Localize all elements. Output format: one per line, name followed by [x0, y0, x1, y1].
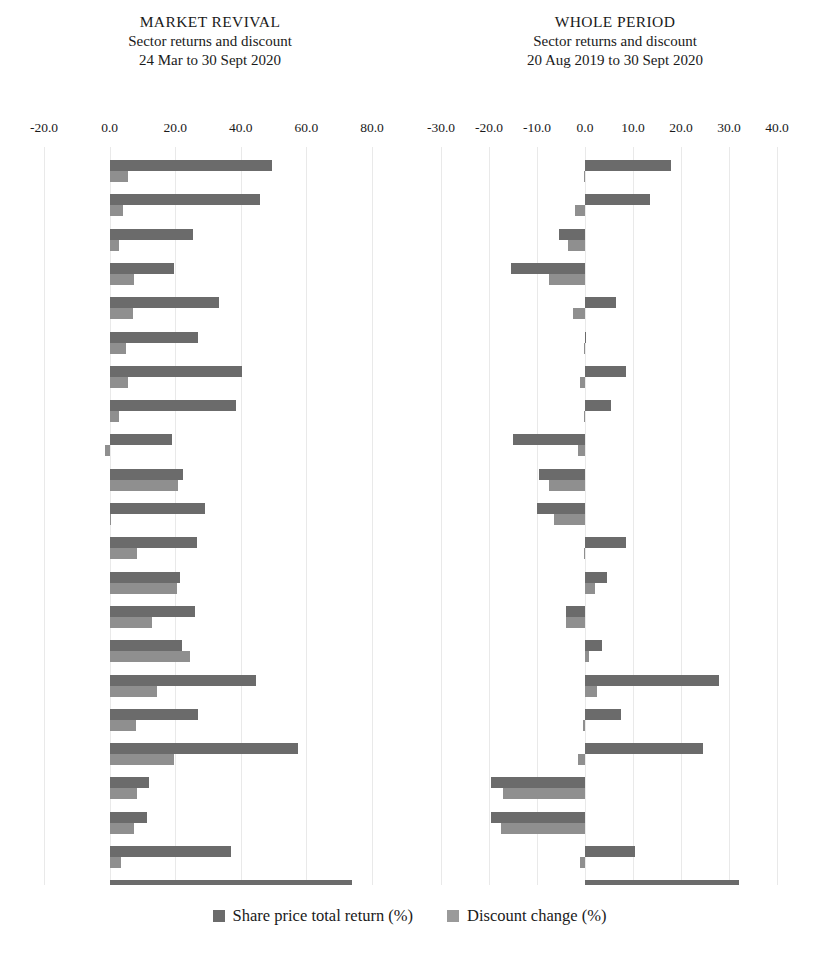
bar-discount-change [110, 343, 126, 354]
bar-group [0, 606, 410, 628]
bar-share-price-total-return [537, 503, 585, 514]
bar-group [410, 880, 819, 885]
bar-share-price-total-return [110, 469, 184, 480]
bar-discount-change [585, 651, 589, 662]
legend-item-share-price-total-return: Share price total return (%) [213, 906, 414, 926]
bar-discount-change [110, 754, 174, 765]
bar-discount-change [580, 377, 585, 388]
bar-share-price-total-return [585, 400, 611, 411]
x-tick-label-market-revival: 40.0 [229, 120, 253, 136]
bar-group [410, 709, 819, 731]
bar-discount-change [575, 205, 585, 216]
bar-group [0, 537, 410, 559]
panel-header-whole-period: WHOLE PERIOD Sector returns and discount… [425, 12, 805, 70]
bar-group [0, 332, 410, 354]
bar-group [410, 606, 819, 628]
chart-figure: MARKET REVIVAL Sector returns and discou… [0, 0, 819, 963]
bar-group [410, 400, 819, 422]
x-tick-label-whole-period: -10.0 [523, 120, 551, 136]
panel-title-market-revival: MARKET REVIVAL [30, 12, 390, 32]
bar-share-price-total-return [110, 160, 272, 171]
bar-group [410, 297, 819, 319]
bar-share-price-total-return [110, 229, 194, 240]
bar-share-price-total-return [491, 812, 585, 823]
bar-discount-change [585, 686, 597, 697]
bar-group [0, 263, 410, 285]
x-tick-label-whole-period: 20.0 [669, 120, 693, 136]
bar-share-price-total-return [585, 880, 739, 885]
chart-legend: Share price total return (%) Discount ch… [0, 906, 819, 926]
bar-discount-change [585, 583, 595, 594]
x-tick-label-market-revival: -20.0 [30, 120, 58, 136]
bar-share-price-total-return [110, 434, 172, 445]
bar-group [410, 263, 819, 285]
bar-share-price-total-return [110, 332, 199, 343]
x-tick-label-whole-period: 10.0 [621, 120, 645, 136]
bar-group [410, 640, 819, 662]
bar-discount-change [110, 617, 153, 628]
panel-period-whole-period: 20 Aug 2019 to 30 Sept 2020 [425, 51, 805, 70]
x-axis-market-revival: -20.00.020.040.060.080.0 [0, 120, 410, 138]
bar-group [0, 743, 410, 765]
bar-group [410, 194, 819, 216]
bar-group [0, 160, 410, 182]
x-tick-label-market-revival: 60.0 [295, 120, 319, 136]
bar-group [0, 812, 410, 834]
bar-discount-change [568, 240, 585, 251]
bar-discount-change [584, 171, 585, 182]
panel-subtitle-whole-period: Sector returns and discount [425, 32, 805, 51]
bar-share-price-total-return [110, 263, 174, 274]
bar-group [0, 229, 410, 251]
bar-discount-change [578, 754, 585, 765]
bar-share-price-total-return [110, 503, 205, 514]
bar-discount-change [554, 514, 585, 525]
bar-discount-change [110, 548, 138, 559]
panel-title-whole-period: WHOLE PERIOD [425, 12, 805, 32]
bar-group [410, 160, 819, 182]
bar-share-price-total-return [110, 194, 261, 205]
bar-discount-change [549, 480, 585, 491]
x-tick-label-market-revival: 80.0 [360, 120, 384, 136]
bar-discount-change [110, 411, 120, 422]
bar-group [410, 572, 819, 594]
bar-group [410, 332, 819, 354]
bar-share-price-total-return [511, 263, 585, 274]
bar-discount-change [110, 651, 190, 662]
bar-share-price-total-return [110, 880, 353, 885]
bar-discount-change [584, 548, 585, 559]
x-tick-label-whole-period: 40.0 [765, 120, 789, 136]
bar-share-price-total-return [110, 777, 149, 788]
bar-discount-change [584, 343, 585, 354]
bar-share-price-total-return [585, 297, 616, 308]
bar-discount-change [110, 377, 128, 388]
bar-discount-change [110, 583, 177, 594]
legend-item-discount-change: Discount change (%) [447, 906, 606, 926]
bar-share-price-total-return [110, 400, 236, 411]
bar-share-price-total-return [585, 572, 607, 583]
x-tick-label-whole-period: 0.0 [577, 120, 594, 136]
bar-group [410, 743, 819, 765]
bar-share-price-total-return [110, 640, 182, 651]
bar-group [0, 469, 410, 491]
bar-share-price-total-return [110, 709, 199, 720]
bar-group [410, 812, 819, 834]
bar-discount-change [110, 171, 128, 182]
bar-group [0, 503, 410, 525]
bar-group [410, 777, 819, 799]
bar-share-price-total-return [566, 606, 585, 617]
bar-discount-change [110, 205, 123, 216]
bar-share-price-total-return [513, 434, 585, 445]
bar-group [0, 434, 410, 456]
bar-group [0, 640, 410, 662]
x-tick-label-whole-period: 30.0 [717, 120, 741, 136]
bar-group [0, 675, 410, 697]
bar-group [410, 469, 819, 491]
bar-share-price-total-return [585, 846, 635, 857]
bar-group [0, 400, 410, 422]
bar-discount-change [549, 274, 585, 285]
x-tick-label-whole-period: -20.0 [475, 120, 503, 136]
bar-group [410, 229, 819, 251]
bar-group [410, 675, 819, 697]
bar-discount-change [110, 823, 135, 834]
bar-share-price-total-return [559, 229, 585, 240]
